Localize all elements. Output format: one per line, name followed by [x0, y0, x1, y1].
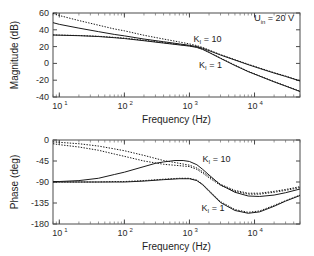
- y-tick-label: -135: [31, 198, 49, 208]
- annotation-phase-1: KI = 1: [202, 203, 225, 214]
- x-tick-exponent: 2: [129, 227, 133, 233]
- plot-frame-magnitude: [53, 13, 300, 97]
- y-tick-label: 0: [44, 58, 49, 68]
- y-tick-label: -180: [31, 219, 49, 229]
- xaxis-label-magnitude: Frequency (Hz): [142, 114, 211, 125]
- annotation-value: = 20 V: [265, 13, 294, 23]
- x-tick-exponent: 4: [260, 100, 264, 106]
- curve-phase-k-i-10-dotted-upper: [53, 142, 300, 193]
- x-tick-exponent: 2: [129, 100, 133, 106]
- curve-phase-k-i-10-dotted-lower: [53, 144, 300, 194]
- y-tick-label: 0: [44, 135, 49, 145]
- y-tick-label: 20: [39, 42, 49, 52]
- yaxis-label-magnitude: Magnitude (dB): [9, 21, 20, 89]
- x-tick-label: 10: [182, 228, 192, 238]
- x-tick-exponent: 1: [64, 100, 68, 106]
- x-tick-label: 10: [248, 101, 258, 111]
- x-tick-label: 10: [52, 101, 62, 111]
- annotation-value: = 10: [210, 154, 230, 164]
- y-tick-label: -40: [36, 92, 49, 102]
- x-tick-exponent: 3: [194, 100, 198, 106]
- y-tick-label: -45: [36, 156, 49, 166]
- x-tick-label: 10: [248, 228, 258, 238]
- annotation-phase-0: KI = 10: [202, 154, 230, 165]
- annotation-value: = 10: [201, 34, 221, 44]
- x-tick-label: 10: [182, 101, 192, 111]
- annotation-magnitude-2: KI = 1: [199, 60, 222, 71]
- annotation-magnitude-1: KI = 10: [194, 34, 222, 45]
- x-tick-label: 10: [117, 228, 127, 238]
- x-tick-exponent: 1: [64, 227, 68, 233]
- bode-plot-figure: 101102103104-40-200204060Uin = 20 VKI = …: [0, 0, 314, 256]
- y-tick-label: 40: [39, 25, 49, 35]
- yaxis-label-phase: Phase (deg): [9, 155, 20, 209]
- x-tick-label: 10: [117, 101, 127, 111]
- x-tick-label: 10: [52, 228, 62, 238]
- xaxis-label-phase: Frequency (Hz): [142, 241, 211, 252]
- curve-magnitude-k-i-10-solid: [53, 23, 300, 81]
- y-tick-label: -90: [36, 177, 49, 187]
- bode-plot-canvas: 101102103104-40-200204060Uin = 20 VKI = …: [0, 0, 314, 256]
- annotation-value: = 1: [209, 203, 224, 213]
- x-tick-exponent: 3: [194, 227, 198, 233]
- panel-magnitude: 101102103104-40-200204060Uin = 20 VKI = …: [9, 8, 300, 125]
- annotation-value: = 1: [207, 60, 222, 70]
- y-tick-label: -20: [36, 75, 49, 85]
- x-tick-exponent: 4: [260, 227, 264, 233]
- panel-phase: 101102103104-180-135-90-450KI = 10KI = 1…: [9, 135, 300, 252]
- y-tick-label: 60: [39, 8, 49, 18]
- curve-phase-k-i-1-dotted-flat: [53, 178, 300, 212]
- annotation-magnitude-0: Uin = 20 V: [254, 13, 294, 24]
